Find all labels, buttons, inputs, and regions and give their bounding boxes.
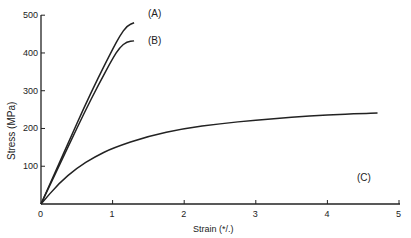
x-tick-label: 2 — [181, 209, 186, 219]
curve-b — [41, 41, 134, 204]
y-axis-label: Stress (MPa) — [6, 102, 17, 160]
axes — [41, 15, 400, 204]
y-tick-label: 100 — [23, 161, 38, 171]
x-tick-label: 4 — [324, 209, 329, 219]
x-tick-label: 5 — [396, 209, 401, 219]
x-tick-label: 3 — [253, 209, 258, 219]
x-tick-label: 0 — [38, 209, 43, 219]
y-tick-label: 500 — [23, 10, 38, 20]
x-ticks: 012345 — [38, 200, 401, 219]
curves — [41, 23, 378, 204]
curve-label-a: (A) — [148, 8, 161, 19]
x-axis-label: Strain (*/.) — [193, 224, 234, 234]
curve-label-c: (C) — [357, 172, 371, 183]
curve-c — [41, 113, 378, 204]
curve-a — [41, 23, 134, 204]
curve-label-b: (B) — [148, 35, 161, 46]
x-tick-label: 1 — [110, 209, 115, 219]
stress-strain-chart: 012345 100200300400500 (A) (B) (C) Strai… — [0, 0, 411, 238]
y-ticks: 100200300400500 — [23, 10, 45, 171]
y-tick-label: 300 — [23, 86, 38, 96]
y-tick-label: 200 — [23, 123, 38, 133]
y-tick-label: 400 — [23, 48, 38, 58]
